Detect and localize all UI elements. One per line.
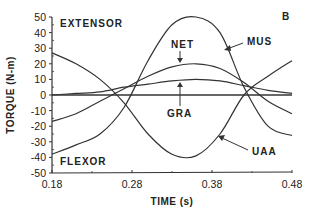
uaa-arrowhead <box>218 135 225 141</box>
flexor-label: FLEXOR <box>60 156 107 167</box>
y-tick-label: -10 <box>31 105 46 117</box>
x-tick-label: 0.28 <box>122 178 143 190</box>
panel-label: B <box>282 11 290 22</box>
x-axis-title: TIME (s) <box>151 196 194 207</box>
y-tick-label: -40 <box>31 151 46 163</box>
x-tick-label: 0.18 <box>42 178 63 190</box>
x-tick-label: 0.48 <box>282 178 303 190</box>
uaa-arrow <box>222 138 248 150</box>
y-axis-title: TORQUE (N-m) <box>5 56 16 133</box>
extensor-label: EXTENSOR <box>60 18 123 29</box>
gra-arrowhead <box>177 82 183 87</box>
y-tick-label: 20 <box>34 58 46 70</box>
net-label: NET <box>171 39 194 50</box>
y-tick-label: 30 <box>34 42 46 54</box>
gra-label: GRA <box>167 108 192 119</box>
y-tick-label: 10 <box>34 73 46 85</box>
uaa-label: UAA <box>252 146 277 157</box>
mus-arrowhead <box>224 45 231 51</box>
annotations: EXTENSORFLEXORBNETMUSGRAUAA <box>60 11 290 167</box>
y-tick-label: 40 <box>34 27 46 39</box>
net-arrowhead <box>177 58 183 63</box>
y-tick-label: 0 <box>40 89 46 101</box>
y-tick-label: 50 <box>34 11 46 23</box>
mus-label: MUS <box>247 36 272 47</box>
y-tick-label: -20 <box>31 120 46 132</box>
y-tick-label: -30 <box>31 136 46 148</box>
torque-chart: 50403020100-10-20-30-40-500.180.280.380.… <box>0 0 312 215</box>
x-tick-label: 0.38 <box>202 178 223 190</box>
curve-uaa <box>52 53 292 158</box>
